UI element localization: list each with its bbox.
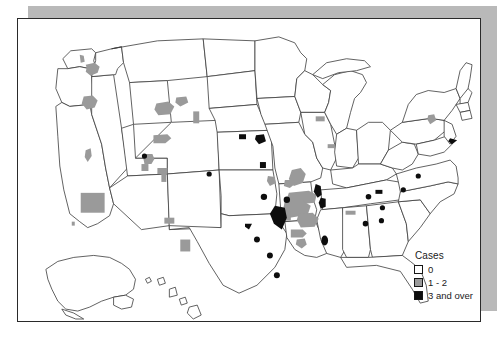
legend-item-3-and-over[interactable]: 3 and over xyxy=(414,289,481,301)
map-legend: Cases 0 1 - 2 3 and over xyxy=(414,250,481,302)
map-canvas[interactable] xyxy=(18,19,480,321)
legend-label-1-2: 1 - 2 xyxy=(428,277,447,288)
legend-item-1-2[interactable]: 1 - 2 xyxy=(414,276,481,288)
legend-label-0: 0 xyxy=(428,264,433,275)
gray-square-icon xyxy=(414,278,423,287)
black-square-icon xyxy=(414,291,423,300)
map-state-outlines xyxy=(46,37,472,319)
white-square-icon xyxy=(414,265,423,274)
map-frame: Cases 0 1 - 2 3 and over xyxy=(17,18,481,322)
legend-item-0[interactable]: 0 xyxy=(414,263,481,275)
legend-label-3-and-over: 3 and over xyxy=(428,290,473,301)
figure-root: Cases 0 1 - 2 3 and over xyxy=(0,0,504,339)
legend-title: Cases xyxy=(415,250,481,262)
